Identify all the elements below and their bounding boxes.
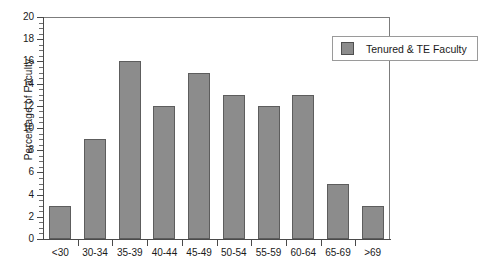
- y-tick-minor: [39, 167, 43, 168]
- y-tick-minor: [39, 89, 43, 90]
- bar: [49, 206, 71, 239]
- y-tick-minor: [39, 206, 43, 207]
- x-tick: [355, 240, 356, 246]
- x-tick: [321, 240, 322, 246]
- x-tick: [78, 240, 79, 246]
- bar: [292, 95, 314, 239]
- y-tick-minor: [39, 189, 43, 190]
- y-tick-major: [37, 150, 43, 151]
- x-tick: [147, 240, 148, 246]
- y-tick-major: [37, 84, 43, 85]
- y-tick-minor: [39, 95, 43, 96]
- y-tick-minor: [39, 161, 43, 162]
- y-tick-label: 20: [4, 12, 34, 22]
- x-tick: [112, 240, 113, 246]
- bar: [84, 139, 106, 239]
- y-tick-label: 16: [4, 56, 34, 66]
- y-tick-minor: [39, 100, 43, 101]
- bar: [119, 61, 141, 239]
- x-tick: [286, 240, 287, 246]
- y-tick-minor: [39, 139, 43, 140]
- y-tick-label: 2: [4, 212, 34, 222]
- x-tick: [217, 240, 218, 246]
- y-tick-label: 14: [4, 79, 34, 89]
- bar: [362, 206, 384, 239]
- y-tick-minor: [39, 28, 43, 29]
- legend-swatch-icon: [341, 42, 354, 55]
- y-tick-minor: [39, 228, 43, 229]
- y-tick-major: [37, 172, 43, 173]
- y-tick-minor: [39, 122, 43, 123]
- y-tick-minor: [39, 50, 43, 51]
- y-tick-minor: [39, 178, 43, 179]
- y-tick-major: [37, 239, 43, 240]
- bar: [223, 95, 245, 239]
- y-tick-minor: [39, 56, 43, 57]
- y-tick-minor: [39, 222, 43, 223]
- y-tick-label: 18: [4, 34, 34, 44]
- y-tick-minor: [39, 34, 43, 35]
- bar: [258, 106, 280, 239]
- y-tick-minor: [39, 211, 43, 212]
- y-tick-minor: [39, 134, 43, 135]
- y-tick-minor: [39, 184, 43, 185]
- y-tick-label: 6: [4, 167, 34, 177]
- legend-label: Tenured & TE Faculty: [366, 43, 467, 55]
- y-tick-minor: [39, 67, 43, 68]
- y-tick-minor: [39, 156, 43, 157]
- y-tick-label: 8: [4, 145, 34, 155]
- y-tick-label: 4: [4, 190, 34, 200]
- y-tick-major: [37, 195, 43, 196]
- y-tick-major: [37, 217, 43, 218]
- bar: [327, 184, 349, 240]
- y-tick-minor: [39, 78, 43, 79]
- y-tick-major: [37, 17, 43, 18]
- bar: [188, 73, 210, 240]
- y-tick-label: 10: [4, 123, 34, 133]
- y-tick-minor: [39, 73, 43, 74]
- x-tick-label: >69: [350, 248, 396, 258]
- y-tick-major: [37, 39, 43, 40]
- bar-chart: Percentage of Faculty 02468101214161820 …: [0, 0, 486, 266]
- y-tick-minor: [39, 111, 43, 112]
- chart-legend: Tenured & TE Faculty: [332, 36, 478, 61]
- y-tick-major: [37, 106, 43, 107]
- y-tick-label: 0: [4, 234, 34, 244]
- y-tick-minor: [39, 23, 43, 24]
- y-tick-minor: [39, 233, 43, 234]
- y-tick-minor: [39, 200, 43, 201]
- x-tick: [251, 240, 252, 246]
- y-tick-minor: [39, 145, 43, 146]
- bar: [153, 106, 175, 239]
- x-tick: [182, 240, 183, 246]
- y-tick-major: [37, 128, 43, 129]
- y-tick-label: 12: [4, 101, 34, 111]
- y-tick-minor: [39, 45, 43, 46]
- y-tick-major: [37, 61, 43, 62]
- y-tick-minor: [39, 117, 43, 118]
